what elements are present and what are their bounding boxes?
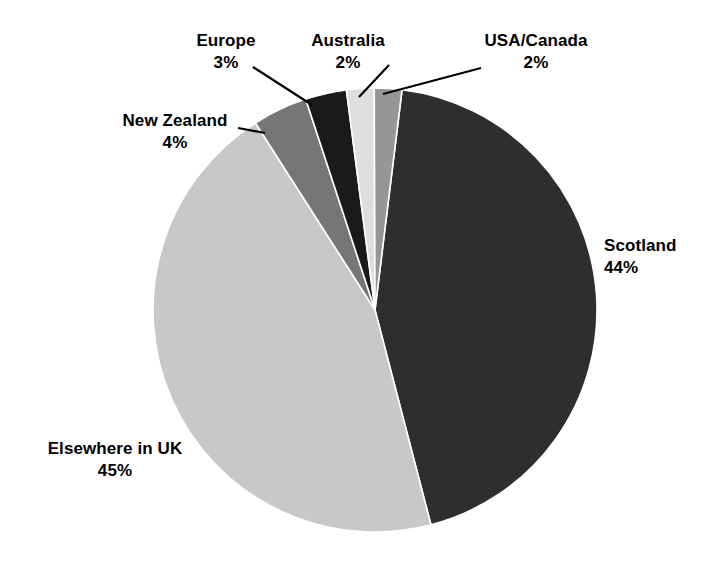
pie-chart-canvas <box>0 0 728 575</box>
pie-label-elsewhere-in-uk-value: 45% <box>6 460 224 482</box>
pie-label-australia-name: Australia <box>288 30 408 52</box>
pie-label-usa-canada-value: 2% <box>462 52 610 74</box>
pie-label-elsewhere-in-uk-name: Elsewhere in UK <box>6 438 224 460</box>
pie-label-australia: Australia 2% <box>288 30 408 74</box>
pie-label-europe-value: 3% <box>166 52 286 74</box>
pie-label-scotland-value: 44% <box>604 257 724 279</box>
pie-label-elsewhere-in-uk: Elsewhere in UK 45% <box>6 438 224 482</box>
pie-label-scotland: Scotland 44% <box>604 235 724 279</box>
pie-label-europe-name: Europe <box>166 30 286 52</box>
pie-label-new-zealand: New Zealand 4% <box>90 110 260 154</box>
pie-label-usa-canada-name: USA/Canada <box>462 30 610 52</box>
pie-label-scotland-name: Scotland <box>604 235 724 257</box>
pie-label-new-zealand-value: 4% <box>90 132 260 154</box>
pie-label-australia-value: 2% <box>288 52 408 74</box>
pie-label-europe: Europe 3% <box>166 30 286 74</box>
pie-label-new-zealand-name: New Zealand <box>90 110 260 132</box>
pie-label-usa-canada: USA/Canada 2% <box>462 30 610 74</box>
pie-chart-figure: Europe 3% Australia 2% USA/Canada 2% New… <box>0 0 728 575</box>
